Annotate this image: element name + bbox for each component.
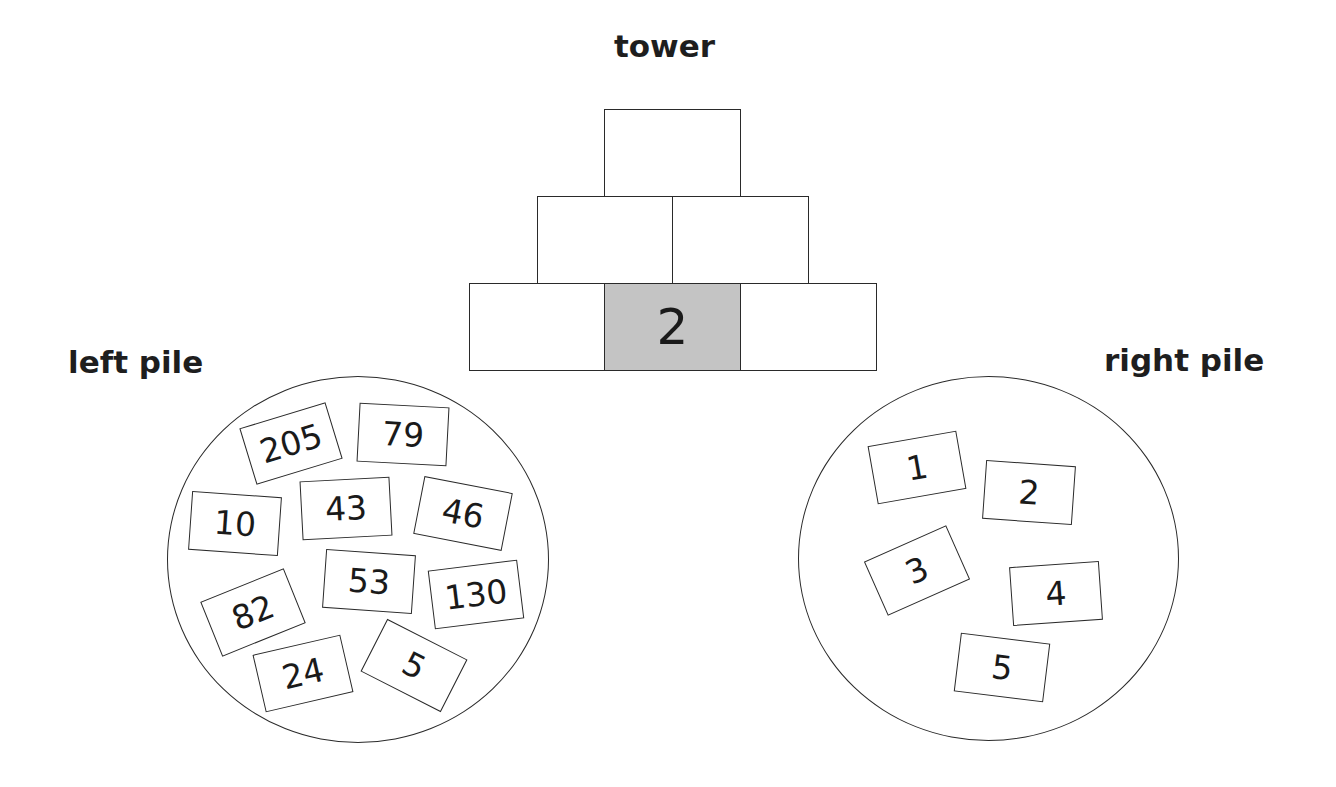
left-pile-title: left pile bbox=[68, 347, 203, 378]
number-card[interactable]: 79 bbox=[357, 402, 450, 466]
number-card[interactable]: 10 bbox=[188, 490, 282, 555]
number-card[interactable]: 53 bbox=[322, 548, 416, 613]
number-card[interactable]: 43 bbox=[300, 476, 393, 540]
number-card[interactable]: 5 bbox=[954, 632, 1051, 702]
tower-brick-bottom-middle[interactable]: 2 bbox=[604, 283, 741, 371]
tower-brick-bottom-right[interactable] bbox=[740, 283, 877, 371]
tower-brick-middle-left[interactable] bbox=[537, 196, 674, 285]
number-card[interactable]: 2 bbox=[982, 459, 1076, 524]
right-pile-title: right pile bbox=[1104, 345, 1264, 376]
tower-title: tower bbox=[614, 31, 715, 62]
number-card[interactable]: 4 bbox=[1009, 560, 1103, 625]
tower-brick-middle-right[interactable] bbox=[672, 196, 809, 285]
tower-brick-top[interactable] bbox=[604, 109, 741, 198]
number-card[interactable]: 130 bbox=[428, 559, 525, 629]
tower-brick-bottom-left[interactable] bbox=[469, 283, 606, 371]
